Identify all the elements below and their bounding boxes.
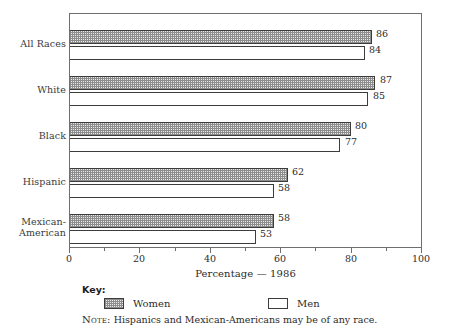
bar-value-men-white: 85 [373, 91, 385, 101]
x-axis-tick-labels: 0 20 40 60 80 100 [0, 253, 452, 267]
bar-value-men-mexican-american: 53 [260, 229, 272, 239]
legend-label-men: Men [297, 298, 320, 309]
category-axis-labels: All Races White Black Hispanic Mexican- … [0, 13, 66, 248]
bar-value-women-black: 80 [355, 121, 367, 131]
bar-men-black[interactable] [70, 138, 340, 152]
category-label-all-races: All Races [2, 38, 66, 49]
tick-50 [245, 248, 246, 251]
bar-value-men-all-races: 84 [369, 45, 381, 55]
bars-layer: 86 84 87 85 80 77 62 58 58 53 [70, 14, 421, 247]
tick-90 [386, 248, 387, 251]
bar-men-all-races[interactable] [70, 46, 365, 60]
tick-label-0: 0 [66, 253, 72, 265]
tick-label-40: 40 [204, 253, 216, 265]
chart-note-kicker: Note: [82, 314, 111, 325]
category-label-mexican-american-line2: American [2, 227, 66, 238]
tick-label-20: 20 [133, 253, 145, 265]
bar-value-women-hispanic: 62 [292, 167, 304, 177]
tick-label-80: 80 [345, 253, 357, 265]
tick-30 [175, 248, 176, 251]
tick-label-60: 60 [274, 253, 286, 265]
legend-label-women: Women [133, 298, 170, 309]
chart-note-text: Hispanics and Mexican-Americans may be o… [114, 314, 378, 325]
bar-value-men-black: 77 [345, 137, 357, 147]
legend-swatch-women-icon [104, 298, 124, 309]
bar-women-white[interactable] [70, 76, 375, 90]
bar-women-black[interactable] [70, 122, 351, 136]
bar-women-all-races[interactable] [70, 30, 372, 44]
bar-men-mexican-american[interactable] [70, 230, 256, 244]
bar-women-hispanic[interactable] [70, 168, 288, 182]
tick-10 [104, 248, 105, 251]
legend-item-men[interactable]: Men [268, 298, 320, 309]
legend-item-women[interactable]: Women [104, 298, 170, 309]
bar-men-hispanic[interactable] [70, 184, 274, 198]
bar-value-women-white: 87 [380, 75, 392, 85]
legend-swatch-men-icon [268, 298, 288, 309]
category-label-black: Black [2, 130, 66, 141]
bar-women-mexican-american[interactable] [70, 214, 274, 228]
category-label-mexican-american-line1: Mexican- [2, 216, 66, 227]
category-label-white: White [2, 84, 66, 95]
chart-note: Note: Hispanics and Mexican-Americans ma… [82, 314, 377, 325]
tick-70 [315, 248, 316, 251]
x-axis-title: Percentage — 1986 [69, 268, 422, 279]
category-label-hispanic: Hispanic [2, 176, 66, 187]
bar-chart-figure: All Races White Black Hispanic Mexican- … [0, 0, 452, 331]
bar-value-women-all-races: 86 [376, 29, 388, 39]
bar-value-men-hispanic: 58 [278, 183, 290, 193]
key-title: Key: [82, 284, 106, 295]
tick-label-100: 100 [412, 253, 430, 265]
bar-men-white[interactable] [70, 92, 368, 106]
bar-value-women-mexican-american: 58 [278, 213, 290, 223]
